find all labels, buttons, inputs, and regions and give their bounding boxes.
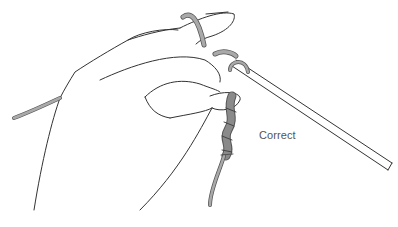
hand-outline [60, 28, 180, 98]
crochet-illustration: Correct [0, 0, 398, 227]
correct-label: Correct [259, 129, 296, 141]
crochet-hook [232, 66, 388, 170]
hand-hook-drawing [0, 0, 398, 227]
yarn [183, 15, 248, 205]
